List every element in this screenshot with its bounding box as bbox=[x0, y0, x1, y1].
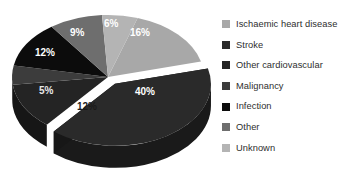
legend-item-label: Other cardiovascular bbox=[236, 55, 323, 76]
chart-legend: Ischaemic heart disease Stroke Other car… bbox=[218, 0, 343, 173]
pie-chart-figure: 16%40%12%5%12%9%6% Ischaemic heart disea… bbox=[0, 0, 343, 173]
pie-plot-area: 16%40%12%5%12%9%6% bbox=[0, 0, 218, 173]
legend-swatch-icon bbox=[222, 61, 230, 69]
legend-item[interactable]: Ischaemic heart disease bbox=[222, 14, 343, 35]
legend-item[interactable]: Other cardiovascular bbox=[222, 55, 343, 76]
pie-svg bbox=[0, 0, 218, 173]
legend-item[interactable]: Stroke bbox=[222, 35, 343, 56]
legend-item-label: Stroke bbox=[236, 35, 263, 56]
legend-swatch-icon bbox=[222, 41, 230, 49]
legend-swatch-icon bbox=[222, 123, 230, 131]
legend-swatch-icon bbox=[222, 103, 230, 111]
legend-item-label: Unknown bbox=[236, 138, 275, 159]
legend-swatch-icon bbox=[222, 20, 230, 28]
legend-item[interactable]: Other bbox=[222, 117, 343, 138]
legend-item-label: Other bbox=[236, 117, 260, 138]
legend-item[interactable]: Unknown bbox=[222, 138, 343, 159]
legend-item[interactable]: Malignancy bbox=[222, 76, 343, 97]
legend-item-label: Infection bbox=[236, 96, 272, 117]
legend-item[interactable]: Infection bbox=[222, 96, 343, 117]
legend-item-label: Ischaemic heart disease bbox=[236, 14, 337, 35]
legend-swatch-icon bbox=[222, 144, 230, 152]
legend-swatch-icon bbox=[222, 82, 230, 90]
legend-item-label: Malignancy bbox=[236, 76, 284, 97]
